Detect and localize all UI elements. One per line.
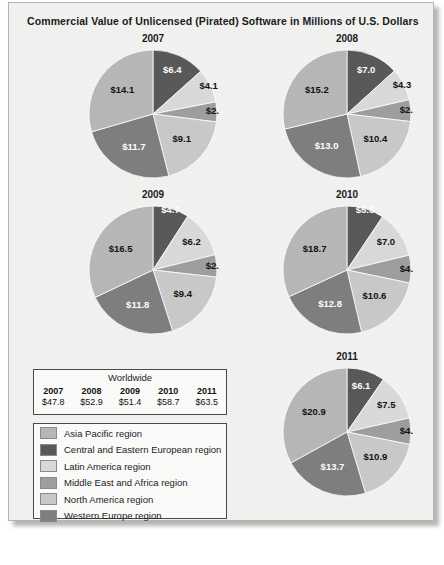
pie-slice-value-label: $6.1: [352, 380, 371, 391]
pie-slice-value-label: $11.7: [122, 141, 145, 152]
pie-svg-2008: $7.0$4.3$2.9$10.4$13.0$15.2: [281, 48, 413, 180]
pie-slice-value-label: $20.9: [302, 406, 326, 417]
worldwide-year-header: 2011: [188, 385, 226, 396]
worldwide-year-header: 2010: [149, 385, 187, 396]
legend-item[interactable]: North America region: [40, 492, 226, 507]
worldwide-value-cell: $58.7: [149, 396, 187, 407]
legend-box: Asia Pacific regionCentral and Eastern E…: [33, 423, 227, 519]
pie-slice-value-label: $9.4: [173, 288, 192, 299]
figure-panel: Commercial Value of Unlicensed (Pirated)…: [8, 2, 434, 521]
legend-item[interactable]: Latin America region: [40, 459, 226, 474]
legend-color-swatch: [40, 460, 57, 472]
pie-slice-value-label: $9.1: [173, 133, 192, 144]
pie-slice-value-label: $13.0: [315, 140, 339, 151]
pie-slice-value-label: $4.1: [400, 263, 413, 274]
worldwide-table: 20072008200920102011 $47.8$52.9$51.4$58.…: [34, 385, 226, 407]
pie-slice-value-label: $2.9: [400, 104, 413, 115]
worldwide-year-header: 2007: [34, 385, 72, 396]
legend-item-label: North America region: [64, 494, 153, 505]
pie-slice-value-label: $18.7: [303, 243, 327, 254]
legend-color-swatch: [40, 477, 57, 489]
legend-item-label: Latin America region: [64, 461, 151, 472]
pie-chart-2007: 2007$6.4$4.1$2.4$9.1$11.7$14.1: [87, 33, 219, 183]
pie-svg-2009: $4.7$6.2$2.9$9.4$11.8$16.5: [87, 204, 219, 336]
legend-color-swatch: [40, 493, 57, 505]
legend-color-swatch: [40, 427, 57, 439]
pie-slice-value-label: $10.6: [363, 290, 387, 301]
legend-item-label: Asia Pacific region: [64, 428, 142, 439]
pie-slice-value-label: $6.4: [163, 64, 182, 75]
worldwide-value-cell: $52.9: [72, 396, 110, 407]
pie-chart-2009: 2009$4.7$6.2$2.9$9.4$11.8$16.5: [87, 189, 219, 339]
pie-slice-value-label: $12.8: [318, 298, 342, 309]
pie-slice-value-label: $4.1: [199, 80, 218, 91]
pie-slice-value-label: $14.1: [110, 84, 134, 95]
pie-slice-value-label: $16.5: [109, 243, 133, 254]
legend-item-label: Western Europe region: [64, 510, 162, 521]
legend-color-swatch: [40, 444, 57, 456]
pie-slice-value-label: $7.5: [377, 399, 396, 410]
worldwide-caption: Worldwide: [34, 372, 226, 383]
legend-item[interactable]: Central and Eastern European region: [40, 443, 226, 458]
pie-slice-value-label: $4.3: [393, 79, 412, 90]
pie-svg-2010: $5.5$7.0$4.1$10.6$12.8$18.7: [281, 204, 413, 336]
pie-year-label: 2007: [87, 33, 219, 44]
legend-item-label: Central and Eastern European region: [64, 444, 221, 455]
legend-item[interactable]: Asia Pacific region: [40, 426, 226, 441]
legend-item[interactable]: Middle East and Africa region: [40, 476, 226, 491]
pie-slice-value-label: $4.2: [400, 425, 413, 436]
worldwide-year-header: 2008: [72, 385, 110, 396]
pie-slice-value-label: $11.8: [126, 299, 149, 310]
pie-chart-2008: 2008$7.0$4.3$2.9$10.4$13.0$15.2: [281, 33, 413, 183]
worldwide-year-header: 2009: [111, 385, 149, 396]
legend-color-swatch: [40, 510, 57, 522]
pie-year-label: 2008: [281, 33, 413, 44]
pie-slice-value-label: $4.7: [161, 204, 180, 215]
pie-chart-2011: 2011$6.1$7.5$4.2$10.9$13.7$20.9: [281, 351, 413, 501]
pie-slice-value-label: $10.4: [364, 133, 388, 144]
pie-slice-value-label: $2.4: [206, 105, 219, 116]
pie-slice-value-label: $15.2: [305, 84, 329, 95]
pie-slice-value-label: $10.9: [364, 451, 388, 462]
pie-year-label: 2009: [87, 189, 219, 200]
pie-chart-2010: 2010$5.5$7.0$4.1$10.6$12.8$18.7: [281, 189, 413, 339]
scanned-page: Commercial Value of Unlicensed (Pirated)…: [0, 0, 444, 565]
figure-title: Commercial Value of Unlicensed (Pirated)…: [27, 15, 427, 27]
pie-slice-value-label: $6.2: [182, 236, 201, 247]
pie-year-label: 2010: [281, 189, 413, 200]
legend-item[interactable]: Western Europe region: [40, 509, 226, 524]
pie-slice-value-label: $7.0: [377, 236, 396, 247]
worldwide-value-cell: $63.5: [188, 396, 226, 407]
pie-slice-value-label: $5.5: [356, 204, 375, 215]
pie-slice-value-label: $7.0: [357, 64, 376, 75]
pie-svg-2007: $6.4$4.1$2.4$9.1$11.7$14.1: [87, 48, 219, 180]
pie-svg-2011: $6.1$7.5$4.2$10.9$13.7$20.9: [281, 366, 413, 498]
worldwide-totals-box: Worldwide 20072008200920102011 $47.8$52.…: [33, 369, 227, 415]
pie-slice-value-label: $2.9: [206, 260, 219, 271]
table-header-row: 20072008200920102011: [34, 385, 226, 396]
pie-year-label: 2011: [281, 351, 413, 362]
worldwide-value-cell: $51.4: [111, 396, 149, 407]
worldwide-value-cell: $47.8: [34, 396, 72, 407]
pie-slice-value-label: $13.7: [321, 461, 345, 472]
table-row: $47.8$52.9$51.4$58.7$63.5: [34, 396, 226, 407]
legend-item-label: Middle East and Africa region: [64, 477, 188, 488]
